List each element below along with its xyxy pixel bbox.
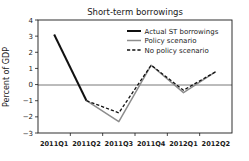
short-term-borrowings-line-chart: Short-term borrowings Percent of GDP 432… — [0, 0, 249, 161]
legend-label-1: Actual ST borrowings — [145, 28, 219, 36]
x-tick-label: 2012Q1 — [169, 140, 198, 148]
series-line-policy-scenario — [87, 65, 216, 122]
chart-title: Short-term borrowings — [87, 7, 183, 17]
y-tick-label: 0 — [29, 81, 33, 89]
x-tick-label: 2012Q2 — [202, 140, 231, 148]
y-tick-label: 1 — [29, 65, 33, 73]
y-tick-label: −1 — [23, 97, 33, 105]
chart-figure: Short-term borrowings Percent of GDP 432… — [0, 0, 249, 161]
x-axis-ticks: 2011Q12011Q22011Q32011Q42012Q12012Q2 — [40, 133, 231, 148]
y-tick-label: 4 — [29, 17, 34, 25]
legend-label-2: Policy scenario — [145, 37, 197, 45]
legend-label-3: No policy scenario — [145, 47, 209, 55]
plot-frame — [38, 20, 232, 133]
y-tick-label: −2 — [23, 113, 33, 121]
y-tick-label: 3 — [29, 33, 33, 41]
series-line-no-policy-scenario — [87, 65, 216, 113]
x-tick-label: 2011Q4 — [137, 140, 166, 148]
series-line-actual-st-borrowings — [54, 35, 86, 101]
y-axis-ticks: 43210−1−2−3 — [23, 17, 38, 138]
x-tick-label: 2011Q2 — [72, 140, 101, 148]
y-tick-label: 2 — [29, 49, 33, 57]
y-tick-label: −3 — [23, 130, 33, 138]
x-tick-label: 2011Q1 — [40, 140, 69, 148]
y-axis-label: Percent of GDP — [2, 47, 11, 107]
chart-legend: Actual ST borrowingsPolicy scenarioNo po… — [127, 28, 219, 55]
x-tick-label: 2011Q3 — [105, 140, 134, 148]
